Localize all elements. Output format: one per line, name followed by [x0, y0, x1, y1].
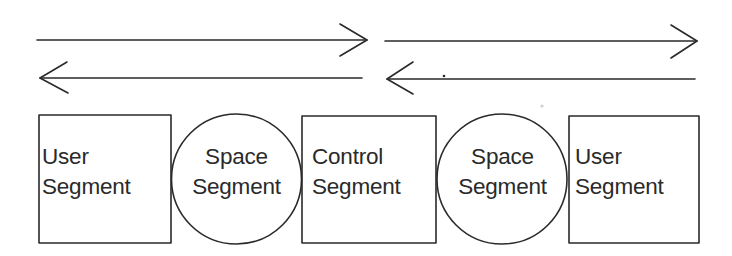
user-segment-label-right: User Segment	[575, 142, 664, 202]
space-segment-label-left: Space Segment	[171, 142, 302, 202]
arrow-right-top-left	[37, 24, 367, 56]
node-label-line1: User	[42, 142, 131, 172]
arrow-left-bottom-right	[387, 62, 695, 94]
node-label-line2: Segment	[171, 172, 302, 202]
node-label-line1: Control	[312, 142, 401, 172]
node-label-line2: Segment	[312, 172, 401, 202]
node-label-line2: Segment	[575, 172, 664, 202]
control-segment-label: Control Segment	[312, 142, 401, 202]
node-label-line1: User	[575, 142, 664, 172]
node-label-line1: Space	[437, 142, 568, 172]
node-label-line2: Segment	[437, 172, 568, 202]
arrow-left-bottom-left	[40, 62, 362, 93]
stray-dot	[443, 75, 446, 78]
stray-dot	[540, 104, 543, 107]
node-label-line2: Segment	[42, 172, 131, 202]
user-segment-label-left: User Segment	[42, 142, 131, 202]
arrow-right-top-right	[385, 25, 697, 58]
segment-diagram	[0, 0, 732, 256]
node-label-line1: Space	[171, 142, 302, 172]
space-segment-label-right: Space Segment	[437, 142, 568, 202]
